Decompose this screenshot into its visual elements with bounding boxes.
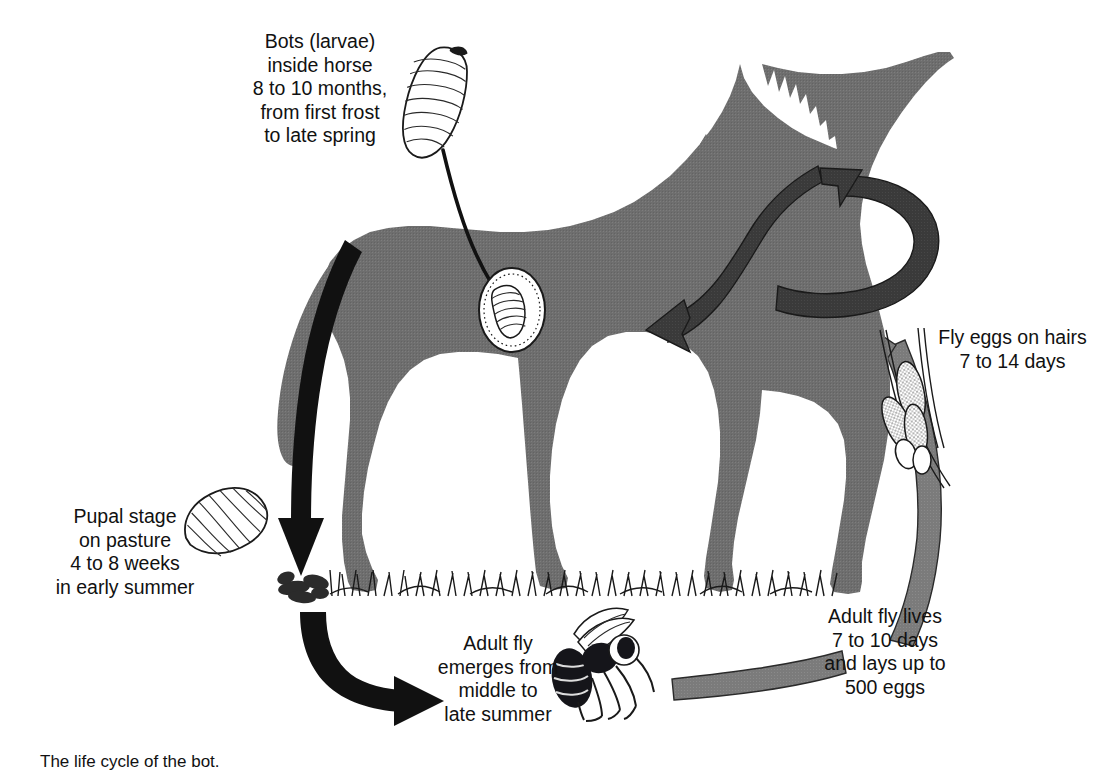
label-fly-eggs-on-hairs: Fly eggs on hairs 7 to 14 days — [925, 326, 1100, 373]
pupa-clump-on-ground — [275, 569, 330, 604]
label-bots-in-horse: Bots (larvae) inside horse 8 to 10 month… — [240, 30, 400, 148]
label-adult-fly-emerges: Adult fly emerges from middle to late su… — [418, 632, 578, 726]
bot-larva-illustration — [398, 40, 472, 162]
stomach-oval-with-larva — [479, 268, 545, 352]
figure-caption: The life cycle of the bot. — [40, 752, 220, 772]
label-adult-fly-lives: Adult fly lives 7 to 10 days and lays up… — [800, 605, 970, 699]
grass-tufts — [330, 570, 837, 596]
label-pupal-stage: Pupal stage on pasture 4 to 8 weeks in e… — [30, 505, 220, 599]
